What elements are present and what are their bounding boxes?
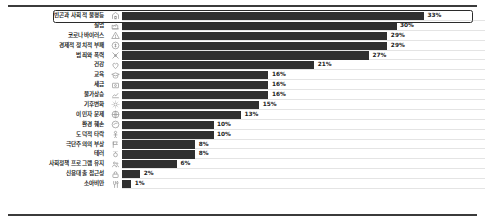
tax-money-icon: [108, 80, 122, 89]
category-label: 소아비만: [0, 179, 108, 189]
bar-area: 15%: [122, 100, 485, 110]
social-policy-icon: [108, 160, 122, 169]
bar-area: 13%: [122, 110, 485, 120]
virus-warning-icon: [108, 31, 122, 40]
immigration-globe-icon: [108, 110, 122, 119]
bar-value-label: 6%: [177, 159, 190, 169]
obesity-food-icon: [108, 179, 122, 188]
bar-value-label: 33%: [424, 11, 441, 21]
bar-area: 8%: [122, 149, 485, 159]
bar-area: 1%: [122, 179, 485, 189]
bar-track: [122, 169, 485, 179]
bar: [122, 150, 195, 158]
chart-row: 기후변화 15%: [0, 100, 485, 110]
bar-area: 8%: [122, 140, 485, 150]
bar-track: [122, 179, 485, 189]
chart-row: 신용대출 접근성 2%: [0, 169, 485, 179]
bar-value-label: 21%: [314, 60, 331, 70]
chart-row: 빈곤과 사회적 불평등 33%: [0, 11, 485, 21]
chart-row: 세금 16%: [0, 80, 485, 90]
heart-health-icon: [108, 61, 122, 70]
bar-value-label: 15%: [259, 100, 276, 110]
category-label: 물가상승: [0, 90, 108, 100]
chart-row: 물가상승 16%: [0, 90, 485, 100]
house-icon: [108, 11, 122, 20]
price-chart-icon: [108, 90, 122, 99]
morality-person-icon: [108, 130, 122, 139]
bottom-divider-rule: [8, 214, 477, 216]
category-label: 극단주의의 부상: [0, 140, 108, 150]
chart-row: 테러 8%: [0, 149, 485, 159]
bar-area: 10%: [122, 120, 485, 130]
bar: [122, 71, 268, 79]
category-label: 사회정책 프로그램 유지: [0, 159, 108, 169]
category-label: 실업: [0, 21, 108, 31]
bar: [122, 32, 387, 40]
chart-row: 소아비만 1%: [0, 179, 485, 189]
bar-value-label: 8%: [195, 140, 208, 150]
environment-globe-icon: [108, 120, 122, 129]
bar: [122, 170, 140, 178]
graduation-cap-icon: [108, 71, 122, 80]
bar-value-label: 13%: [241, 110, 258, 120]
bar-area: 27%: [122, 51, 485, 61]
category-label: 이민자 문제: [0, 110, 108, 120]
bar-value-label: 10%: [214, 120, 231, 130]
bar: [122, 91, 268, 99]
chart-row: 교육 16%: [0, 70, 485, 80]
bar-value-label: 2%: [140, 169, 153, 179]
climate-sun-icon: [108, 100, 122, 109]
category-label: 빈곤과 사회적 불평등: [0, 11, 108, 21]
bar-area: 21%: [122, 60, 485, 70]
bar-value-label: 16%: [268, 70, 285, 80]
bar-area: 29%: [122, 41, 485, 51]
bar: [122, 111, 241, 119]
bar: [122, 81, 268, 89]
category-label: 교육: [0, 70, 108, 80]
bar: [122, 22, 397, 30]
bar-value-label: 10%: [214, 130, 231, 140]
category-label: 건강: [0, 60, 108, 70]
chart-row: 실업 30%: [0, 21, 485, 31]
bar-value-label: 29%: [387, 41, 404, 51]
bar-area: 10%: [122, 130, 485, 140]
bar-area: 2%: [122, 169, 485, 179]
extremism-flag-icon: [108, 140, 122, 149]
factory-icon: [108, 21, 122, 30]
bar-area: 29%: [122, 31, 485, 41]
top-divider-rule: [8, 5, 477, 7]
bar-chart: 빈곤과 사회적 불평등 33% 실업 30% 코로나바이러스: [0, 0, 485, 222]
bar-area: 16%: [122, 70, 485, 80]
corruption-icon: [108, 41, 122, 50]
bar-area: 6%: [122, 159, 485, 169]
bar-area: 16%: [122, 80, 485, 90]
bar: [122, 140, 195, 148]
bar-area: 16%: [122, 90, 485, 100]
bar-value-label: 16%: [268, 90, 285, 100]
category-label: 도덕적 타락: [0, 130, 108, 140]
category-label: 기후변화: [0, 100, 108, 110]
bar: [122, 121, 214, 129]
bar-area: 30%: [122, 21, 485, 31]
bar-value-label: 16%: [268, 80, 285, 90]
crime-violence-icon: [108, 51, 122, 60]
category-label: 신용대출 접근성: [0, 169, 108, 179]
chart-row: 사회정책 프로그램 유지 6%: [0, 159, 485, 169]
bar: [122, 42, 387, 50]
chart-row: 건강 21%: [0, 60, 485, 70]
bar: [122, 101, 259, 109]
bar-value-label: 8%: [195, 149, 208, 159]
bar-value-label: 29%: [387, 31, 404, 41]
category-label: 테러: [0, 149, 108, 159]
terrorism-icon: [108, 150, 122, 159]
chart-plot-area: 빈곤과 사회적 불평등 33% 실업 30% 코로나바이러스: [0, 11, 485, 189]
category-label: 범죄와 폭력: [0, 51, 108, 61]
chart-row: 도덕적 타락 10%: [0, 130, 485, 140]
chart-row: 환경 훼손 10%: [0, 120, 485, 130]
bar-value-label: 27%: [369, 51, 386, 61]
credit-lock-icon: [108, 170, 122, 179]
bar: [122, 180, 131, 188]
bar-value-label: 1%: [131, 179, 144, 189]
chart-row: 코로나바이러스 29%: [0, 31, 485, 41]
category-label: 환경 훼손: [0, 120, 108, 130]
